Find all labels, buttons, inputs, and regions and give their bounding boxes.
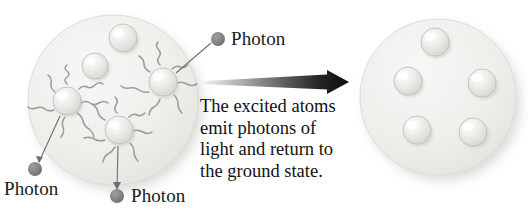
caption-line-1: The excited atoms [200, 96, 355, 118]
caption-line-3: light and return to [200, 139, 355, 161]
right-medium-group [360, 19, 520, 180]
transition-arrow [201, 70, 349, 94]
caption-line-2: emit photons of [200, 118, 355, 140]
process-caption: The excited atoms emit photons of light … [200, 96, 355, 182]
transition-arrow-shape [201, 70, 349, 94]
figure-canvas: Photon Photon Photon The excited atoms e… [0, 0, 528, 214]
photon-label-bottom-left: Photon [4, 179, 58, 198]
photon-label-top: Photon [231, 29, 285, 48]
photon-dot [110, 189, 124, 203]
photon-label-bottom-center: Photon [131, 186, 185, 205]
photon-dot [28, 162, 42, 176]
photon-dot [211, 32, 225, 46]
left-medium-group [28, 15, 202, 190]
caption-line-4: the ground state. [200, 161, 355, 183]
